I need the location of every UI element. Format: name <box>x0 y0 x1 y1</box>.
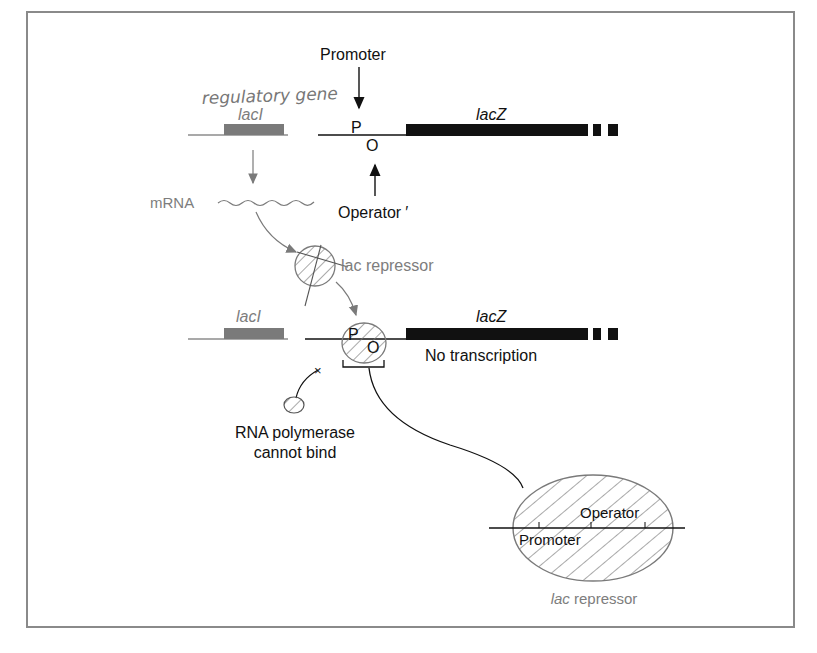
no-transcription-label: No transcription <box>425 347 537 364</box>
laci-gene-block <box>224 124 284 135</box>
top-promoter-letter: P <box>351 119 362 136</box>
lac-operon-diagram: lacI lacZ Promoter P O regulatory gene O… <box>0 0 817 653</box>
blocked-x-icon: × <box>314 363 322 378</box>
top-dna-row <box>188 124 618 136</box>
bottom-dna-row <box>188 328 618 340</box>
laci-gene-block-bottom <box>224 328 284 339</box>
inset-operator-label: Operator <box>580 504 639 521</box>
lacz-gene-block-bottom <box>406 328 588 340</box>
zoom-connector <box>369 368 523 488</box>
lacz-gene-block <box>406 124 588 136</box>
polymerase-line1: RNA polymerase <box>235 424 355 441</box>
top-operator-letter: O <box>366 137 378 154</box>
mrna-wave-icon <box>218 201 314 206</box>
rna-polymerase-icon <box>284 397 304 413</box>
promoter-label: Promoter <box>320 46 386 63</box>
handwritten-note: regulatory gene <box>201 83 338 108</box>
inset-zoom <box>489 475 685 581</box>
inset-repressor-label: lac repressor <box>551 590 638 607</box>
polymerase-line2: cannot bind <box>254 444 337 461</box>
mrna-label: mRNA <box>150 194 194 211</box>
lac-repressor-free <box>295 245 348 306</box>
top-lacz-label: lacZ <box>476 106 507 123</box>
bottom-operator-letter: O <box>367 339 379 356</box>
top-laci-label: lacI <box>238 106 263 123</box>
bottom-lacz-label: lacZ <box>476 308 507 325</box>
operator-label: Operator′ <box>338 204 408 221</box>
bottom-promoter-letter: P <box>348 326 359 343</box>
bottom-laci-label: lacI <box>236 308 261 325</box>
translation-arrow-icon <box>256 212 296 252</box>
inset-promoter-label: Promoter <box>519 531 581 548</box>
repressor-label: lac repressor <box>341 257 434 274</box>
binding-arrow-icon <box>336 282 356 315</box>
